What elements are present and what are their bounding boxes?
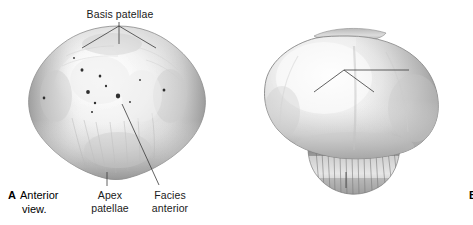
label-facies-anterior-line1: Facies bbox=[142, 189, 198, 202]
caption-posterior-letter: B bbox=[469, 189, 473, 201]
leader-lines-anterior bbox=[82, 22, 159, 186]
patella-anterior-body bbox=[29, 26, 206, 180]
leader-facies-articularis-right-arm bbox=[344, 70, 374, 92]
anatomy-figure: Basis patellae Apex patellae Facies ante… bbox=[0, 0, 473, 225]
patella-posterior-apex bbox=[308, 148, 400, 194]
label-basis-patellae: Basis patellae bbox=[74, 8, 166, 21]
leader-facies-articularis-left-arm bbox=[314, 70, 344, 92]
label-facies-anterior: Facies anterior bbox=[142, 189, 198, 214]
label-basis-patellae-text: Basis patellae bbox=[87, 8, 154, 20]
patella-posterior-basis-rim bbox=[314, 28, 386, 42]
label-facies-anterior-line2: anterior bbox=[142, 202, 198, 215]
posterior-shading-group bbox=[262, 30, 447, 165]
leader-facies-anterior bbox=[122, 104, 159, 185]
caption-posterior: BPosterior view. bbox=[469, 189, 473, 216]
leader-basis-right-arm bbox=[119, 26, 156, 48]
caption-anterior: AAnterior view. bbox=[8, 189, 98, 216]
anterior-shading-group bbox=[26, 26, 211, 182]
panel-posterior-view: Facies articularis Apex patellae BPoster… bbox=[236, 0, 473, 225]
apex-striations bbox=[306, 148, 406, 198]
leader-basis-left-arm bbox=[82, 26, 119, 48]
patella-posterior-body bbox=[265, 36, 439, 159]
panel-anterior-view: Basis patellae Apex patellae Facies ante… bbox=[0, 0, 236, 225]
leader-lines-posterior bbox=[314, 70, 409, 188]
caption-anterior-line2: view. bbox=[22, 203, 98, 217]
patella-posterior-illustration bbox=[236, 0, 473, 225]
nutrient-foramina bbox=[43, 57, 166, 113]
caption-anterior-line1: Anterior bbox=[20, 189, 59, 201]
caption-anterior-letter: A bbox=[8, 189, 16, 201]
